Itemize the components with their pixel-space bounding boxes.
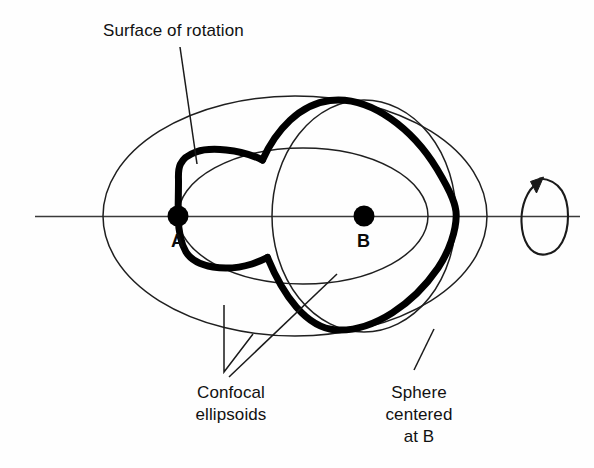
leader-line-surface-of-rotation — [180, 47, 197, 164]
focus-point-b-dot — [354, 206, 375, 227]
label-confocal-ellipsoids-line1: Confocal — [185, 382, 277, 404]
label-sphere-line2: centered — [373, 404, 465, 426]
leader-line-sphere-centered-at-b — [414, 329, 434, 370]
leader-pointer-confocal-ellipsoids — [224, 305, 253, 372]
confocal-ellipsoids-diagram — [0, 0, 594, 468]
focus-point-a-dot — [168, 206, 189, 227]
rotation-arrow-head-icon — [531, 177, 544, 193]
label-surface-of-rotation: Surface of rotation — [103, 20, 244, 42]
label-sphere-line1: Sphere — [373, 382, 465, 404]
label-confocal-ellipsoids-line2: ellipsoids — [185, 404, 277, 426]
label-sphere-line3: at B — [373, 426, 465, 448]
label-point-b: B — [357, 232, 370, 250]
label-point-a: A — [171, 232, 184, 250]
bold-curve-inner-ellipse-arc — [178, 149, 267, 268]
